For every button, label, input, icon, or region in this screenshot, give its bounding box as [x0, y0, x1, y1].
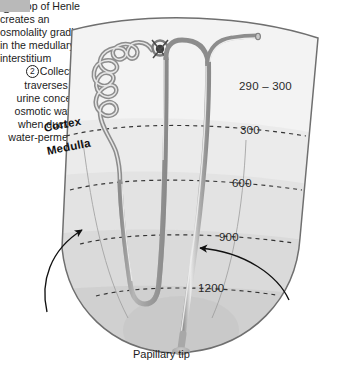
figure-canvas: Cortex Medulla 290 – 300 300 600 900 120…	[0, 0, 341, 381]
osmolality-300: 300	[240, 124, 260, 136]
label-papillary-tip: Papillary tip	[133, 348, 190, 360]
osmolality-290-300: 290 – 300	[239, 80, 292, 92]
osmolality-900: 900	[219, 231, 239, 243]
nephron-diagram	[0, 0, 341, 381]
collecting-duct-open-end	[256, 33, 261, 39]
osmolality-1200: 1200	[198, 282, 224, 294]
kidney-wedge	[40, 0, 320, 381]
osmolality-600: 600	[232, 177, 252, 189]
